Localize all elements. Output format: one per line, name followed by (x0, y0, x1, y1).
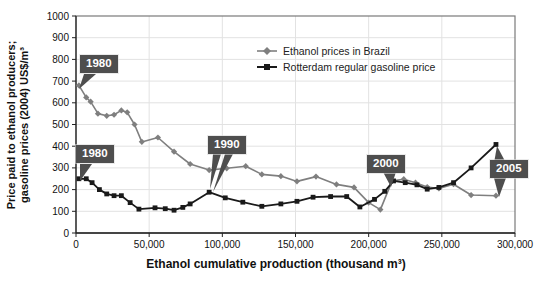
callout-1990: 1990 (208, 136, 246, 154)
callout-pointer-2005-down (494, 178, 506, 197)
callout-pointer-1990-a (210, 154, 221, 189)
callout-1980-gasoline: 1980 (76, 145, 114, 163)
callout-2000: 2000 (367, 155, 405, 173)
callout-2005: 2005 (490, 160, 528, 178)
callout-pointer-1980-ethanol (79, 74, 96, 89)
callout-1980-ethanol: 1980 (80, 55, 118, 73)
figure: 01002003004005006007008009001000050,0001… (0, 0, 552, 294)
callout-pointer-1980-gasoline (80, 164, 92, 181)
callout-pointer-2000 (383, 172, 396, 187)
